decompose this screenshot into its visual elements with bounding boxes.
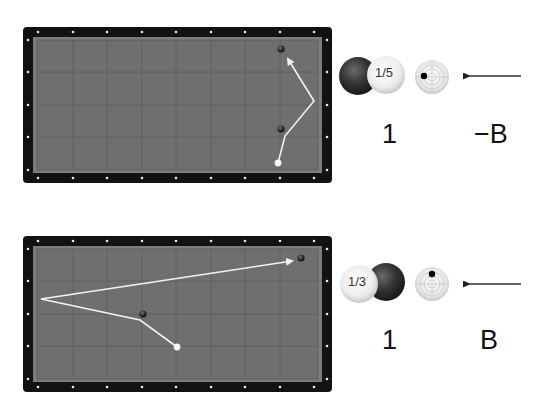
contact-fraction-label: 1/3 xyxy=(348,275,366,288)
table-2 xyxy=(23,236,332,392)
contact-diagram-1 xyxy=(339,56,405,95)
cue-ball xyxy=(174,344,181,351)
spin-point xyxy=(429,271,435,277)
contact-fraction-label: 1/5 xyxy=(375,66,393,79)
spin-label: B xyxy=(480,327,498,354)
table-1 xyxy=(23,27,332,183)
cue-ball xyxy=(275,160,282,167)
speed-label: 1 xyxy=(382,327,397,354)
spin-point xyxy=(421,73,427,79)
billiards-diagram-canvas xyxy=(0,0,545,402)
spin-diagram-1 xyxy=(415,60,449,94)
object-ball xyxy=(277,45,284,52)
object-ball xyxy=(297,254,304,261)
spin-diagram-2 xyxy=(415,267,449,301)
object-ball xyxy=(139,310,146,317)
spin-label: −B xyxy=(474,121,508,148)
speed-label: 1 xyxy=(382,121,397,148)
object-ball xyxy=(277,125,284,132)
